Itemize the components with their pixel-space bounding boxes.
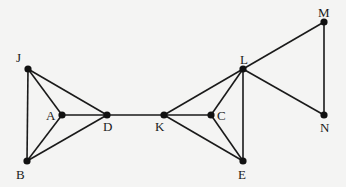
edge-l-m — [243, 22, 324, 69]
node-k — [160, 111, 167, 118]
node-label-n: N — [320, 120, 330, 135]
node-label-e: E — [238, 167, 246, 182]
edge-a-b — [27, 115, 62, 161]
edge-c-e — [211, 115, 243, 161]
node-label-l: L — [240, 52, 248, 67]
edge-l-n — [243, 69, 324, 115]
node-label-a: A — [46, 108, 56, 123]
node-j — [24, 65, 31, 72]
edge-k-e — [164, 115, 243, 161]
node-label-b: B — [16, 167, 25, 182]
labels-group: JADBKCLEMN — [16, 5, 330, 182]
edge-c-l — [211, 69, 243, 115]
edge-j-b — [27, 69, 28, 161]
node-e — [239, 157, 246, 164]
node-a — [58, 111, 65, 118]
node-label-c: C — [217, 108, 226, 123]
edge-j-d — [28, 69, 107, 115]
edges-group — [27, 22, 324, 161]
node-d — [103, 111, 110, 118]
edge-j-a — [28, 69, 62, 115]
node-label-d: D — [103, 119, 112, 134]
node-label-m: M — [318, 5, 330, 20]
node-n — [320, 111, 327, 118]
node-label-j: J — [16, 50, 21, 65]
edge-b-d — [27, 115, 107, 161]
node-b — [23, 157, 30, 164]
edge-k-l — [164, 69, 243, 115]
node-c — [207, 111, 214, 118]
graph-diagram: JADBKCLEMN — [0, 0, 346, 187]
node-label-k: K — [155, 119, 165, 134]
